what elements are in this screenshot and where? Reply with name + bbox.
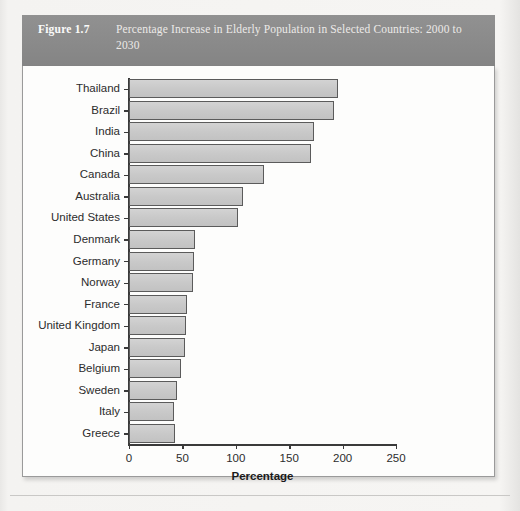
- x-axis-tick-label: 200: [333, 452, 352, 464]
- bar-row: Denmark: [129, 230, 396, 249]
- bar-row: United States: [129, 208, 396, 227]
- x-axis-tick: [236, 444, 237, 449]
- bar-row: Australia: [129, 187, 396, 206]
- y-axis-label: France: [84, 295, 120, 314]
- page-rule: [10, 495, 510, 496]
- x-axis-title: Percentage: [129, 470, 396, 482]
- bar: [129, 381, 177, 400]
- bar: [129, 359, 181, 378]
- y-axis-label: Greece: [82, 424, 120, 443]
- y-axis-label: United Kingdom: [38, 316, 120, 335]
- y-axis-label: Germany: [73, 252, 120, 271]
- y-axis-label: Italy: [99, 402, 120, 421]
- y-axis-label: United States: [51, 208, 120, 227]
- y-axis-label: Thailand: [76, 79, 120, 98]
- bar: [129, 295, 187, 314]
- bar-row: Greece: [129, 424, 396, 443]
- x-axis-tick: [396, 444, 397, 449]
- bar: [129, 208, 238, 227]
- y-axis-label: India: [95, 122, 120, 141]
- y-axis-label: Denmark: [73, 230, 120, 249]
- x-axis-tick-label: 150: [280, 452, 299, 464]
- bar: [129, 101, 334, 120]
- bar: [129, 122, 314, 141]
- x-axis-tick: [129, 444, 130, 449]
- bar-row: Norway: [129, 273, 396, 292]
- y-axis-label: Brazil: [91, 101, 120, 120]
- figure-caption-bar: Figure 1.7 Percentage Increase in Elderl…: [22, 15, 495, 66]
- bar: [129, 273, 193, 292]
- bar-row: United Kingdom: [129, 316, 396, 335]
- plot-area: ThailandBrazilIndiaChinaCanadaAustraliaU…: [129, 78, 396, 444]
- bar: [129, 338, 185, 357]
- bar-row: Belgium: [129, 359, 396, 378]
- x-axis-tick-label: 250: [386, 452, 405, 464]
- y-axis-label: Canada: [80, 165, 120, 184]
- bar: [129, 252, 194, 271]
- bar-row: Italy: [129, 402, 396, 421]
- figure-number: Figure 1.7: [38, 22, 90, 38]
- y-axis-label: Norway: [81, 273, 120, 292]
- bar: [129, 144, 311, 163]
- bar-row: Sweden: [129, 381, 396, 400]
- x-axis-tick: [289, 444, 290, 449]
- figure-caption: Figure 1.7 Percentage Increase in Elderl…: [38, 22, 481, 53]
- bar: [129, 165, 264, 184]
- x-axis-tick-label: 50: [176, 452, 189, 464]
- bar: [129, 187, 243, 206]
- x-axis-tick-label: 100: [226, 452, 245, 464]
- bar: [129, 402, 174, 421]
- x-axis-tick-label: 0: [126, 452, 132, 464]
- bar: [129, 230, 195, 249]
- x-axis-tick: [182, 444, 183, 449]
- bar-row: Canada: [129, 165, 396, 184]
- y-axis-label: China: [90, 144, 120, 163]
- figure-title: Percentage Increase in Elderly Populatio…: [116, 22, 481, 53]
- chart-panel: ThailandBrazilIndiaChinaCanadaAustraliaU…: [22, 66, 495, 477]
- bar: [129, 79, 338, 98]
- y-axis-label: Belgium: [78, 359, 120, 378]
- y-axis-label: Sweden: [78, 381, 120, 400]
- bar: [129, 316, 186, 335]
- bar-row: Thailand: [129, 79, 396, 98]
- y-axis-label: Australia: [75, 187, 120, 206]
- x-axis-line: [128, 444, 396, 446]
- y-axis-label: Japan: [89, 338, 120, 357]
- bar-row: Japan: [129, 338, 396, 357]
- bar: [129, 424, 175, 443]
- bar-row: Brazil: [129, 101, 396, 120]
- bar-row: Germany: [129, 252, 396, 271]
- figure-container: Figure 1.7 Percentage Increase in Elderl…: [22, 15, 495, 477]
- x-axis-tick: [343, 444, 344, 449]
- bar-row: France: [129, 295, 396, 314]
- bar-row: China: [129, 144, 396, 163]
- bar-row: India: [129, 122, 396, 141]
